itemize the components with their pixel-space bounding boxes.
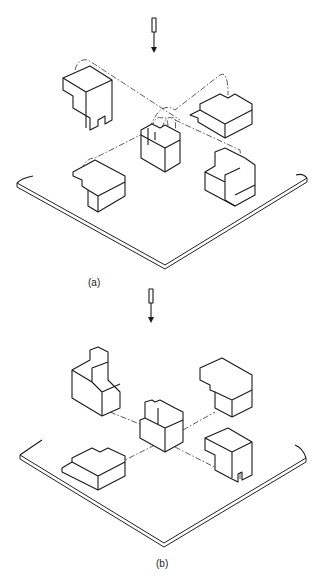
- block-top-right-b: [200, 358, 252, 417]
- block-bottom-left-b: [62, 448, 125, 490]
- block-bottom-right-b: [205, 428, 252, 482]
- ground-plate-b: [20, 440, 306, 547]
- view-arrow-icon-b: [148, 289, 154, 323]
- block-center-b: [140, 400, 183, 452]
- block-top-left-b: [72, 347, 120, 416]
- figure-b: [0, 0, 326, 579]
- figure-label-b: (b): [156, 558, 168, 569]
